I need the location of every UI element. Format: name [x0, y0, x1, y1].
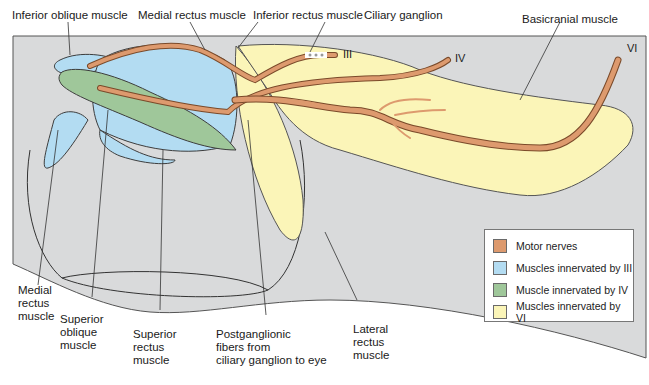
legend-label: Muscles innervated by III	[516, 262, 632, 274]
legend-item-motor-nerves: Motor nerves	[493, 238, 577, 254]
swatch-motor-nerves	[493, 239, 507, 253]
nerve-label-III: III	[343, 48, 352, 60]
label-medial-rectus-muscle-top: Medial rectus muscle	[138, 9, 246, 22]
legend-label: Muscles innervated by VI	[516, 300, 633, 324]
legend-item-muscles-vi: Muscles innervated by VI	[493, 304, 633, 320]
label-ciliary-ganglion: Ciliary ganglion	[364, 9, 443, 22]
ciliary-ganglion-shape	[305, 52, 327, 58]
legend-label: Motor nerves	[516, 240, 577, 252]
legend-item-muscle-iv: Muscle innervated by IV	[493, 282, 628, 298]
label-basicranial-muscle: Basicranial muscle	[522, 13, 618, 26]
label-inferior-rectus-muscle: Inferior rectus muscle	[253, 9, 363, 22]
label-lateral-rectus-muscle: Lateral rectus muscle	[353, 323, 389, 362]
label-superior-oblique-muscle: Superior oblique muscle	[60, 313, 103, 352]
swatch-muscle-iv	[493, 283, 507, 297]
label-inferior-oblique-muscle: Inferior oblique muscle	[12, 9, 128, 22]
label-postganglionic-fibers: Postganglionic fibers from ciliary gangl…	[216, 328, 327, 367]
legend: Motor nerves Muscles innervated by III M…	[484, 229, 634, 322]
legend-label: Muscle innervated by IV	[516, 284, 628, 296]
legend-item-muscles-iii: Muscles innervated by III	[493, 260, 632, 276]
label-superior-rectus-muscle: Superior rectus muscle	[133, 328, 176, 367]
nerve-label-IV: IV	[455, 52, 465, 64]
swatch-muscles-iii	[493, 261, 507, 275]
nerve-label-VI: VI	[627, 42, 637, 54]
label-medial-rectus-muscle-bottom: Medial rectus muscle	[18, 284, 54, 323]
swatch-muscles-vi	[493, 305, 507, 319]
